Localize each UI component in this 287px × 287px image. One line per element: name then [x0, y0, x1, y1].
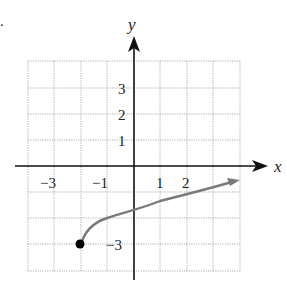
y-tick-label: 1 [118, 133, 126, 149]
x-axis-label: x [273, 157, 282, 176]
graph: x y . −3 1 −1 1 2 3 2 1 −3 [0, 0, 287, 287]
problem-marker: . [0, 13, 4, 29]
x-tick-label: 1 [156, 175, 164, 191]
y-tick-label: 2 [118, 107, 126, 123]
x-tick-label: 2 [182, 175, 190, 191]
function-curve [81, 182, 232, 245]
y-axis-label: y [126, 15, 136, 34]
x-tick-label: −1 [92, 175, 108, 191]
axes [15, 48, 258, 280]
x-tick-label: −3 [40, 175, 56, 191]
start-point [76, 240, 85, 249]
y-tick-label: 3 [118, 81, 126, 97]
y-tick-label: −3 [106, 237, 122, 253]
curve-arrow-icon [227, 178, 240, 186]
